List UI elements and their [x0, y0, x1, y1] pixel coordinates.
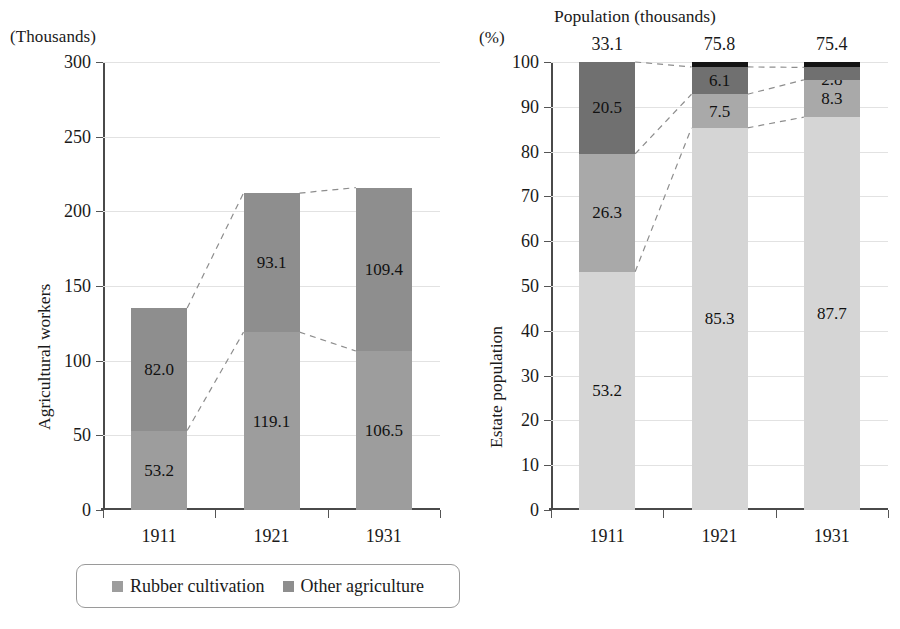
y-tick-mark: [544, 107, 551, 108]
y-tick-label: 0: [530, 501, 539, 519]
bar-segment-value: 6.1: [709, 72, 730, 89]
y-tick-label: 50: [521, 277, 539, 295]
y-tick-mark: [96, 361, 103, 362]
y-tick-label: 20: [521, 411, 539, 429]
panel-agricultural-workers: (Thousands) Agricultural workers 0501001…: [0, 0, 460, 629]
bar-stack[interactable]: 85.37.56.1: [692, 62, 748, 510]
bar-segment-value: 119.1: [253, 413, 291, 430]
left-legend: Rubber cultivationOther agriculture: [76, 564, 460, 608]
y-tick-mark: [96, 435, 103, 436]
y-tick-mark: [96, 62, 103, 63]
connector-line: [635, 128, 691, 272]
y-tick-label: 0: [82, 501, 91, 519]
y-tick-mark: [96, 211, 103, 212]
x-tick-label: 1911: [589, 526, 624, 547]
bar-stack[interactable]: 87.78.32.8: [804, 62, 860, 510]
x-tick-mark: [551, 510, 552, 518]
y-tick-label: 100: [64, 352, 91, 370]
bar-segment-value: 85.3: [705, 310, 735, 327]
bar-segment[interactable]: 8.3: [804, 80, 860, 117]
bar-total-label: 75.4: [816, 34, 848, 55]
bar-segment[interactable]: 87.7: [804, 117, 860, 510]
bar-stack[interactable]: 119.193.1: [244, 62, 300, 510]
connector-line: [300, 332, 356, 351]
y-tick-mark: [544, 62, 551, 63]
x-tick-mark: [776, 510, 777, 518]
y-tick-mark: [544, 420, 551, 421]
x-tick-label: 1921: [702, 526, 738, 547]
bar-segment[interactable]: 85.3: [692, 128, 748, 510]
bar-segment-value: 7.5: [709, 103, 730, 120]
x-tick-mark: [888, 510, 889, 518]
bar-segment[interactable]: 109.4: [356, 188, 412, 351]
bar-segment[interactable]: [804, 62, 860, 67]
legend-item-other-agriculture[interactable]: Other agriculture: [283, 576, 424, 597]
bar-segment[interactable]: 106.5: [356, 351, 412, 510]
y-tick-mark: [544, 465, 551, 466]
bar-segment-value: 26.3: [592, 204, 622, 221]
y-tick-mark: [96, 286, 103, 287]
right-plot-area: 0102030405060708090100 191119211931 33.1…: [551, 62, 888, 510]
connector-line: [300, 188, 356, 194]
bar-segment-value: 109.4: [365, 261, 403, 278]
bar-stack[interactable]: 53.282.0: [131, 62, 187, 510]
x-tick-label: 1931: [366, 526, 402, 547]
x-tick-mark: [440, 510, 441, 518]
bar-segment[interactable]: 20.5: [579, 62, 635, 154]
bar-stack[interactable]: 53.226.320.5: [579, 62, 635, 510]
legend-swatch-icon: [283, 581, 294, 592]
x-tick-mark: [328, 510, 329, 518]
right-unit-caption: (%): [479, 28, 505, 48]
left-plot-area: 050100150200250300 191119211931 53.282.0…: [103, 62, 440, 510]
bar-segment[interactable]: 82.0: [131, 308, 187, 430]
x-tick-label: 1931: [814, 526, 850, 547]
connector-line: [748, 117, 804, 128]
y-tick-label: 40: [521, 322, 539, 340]
bar-total-label: 33.1: [591, 34, 623, 55]
bar-segment-value: 8.3: [821, 90, 842, 107]
x-tick-mark: [663, 510, 664, 518]
y-tick-label: 150: [64, 277, 91, 295]
bar-segment[interactable]: 6.1: [692, 67, 748, 94]
y-tick-label: 50: [73, 426, 91, 444]
bar-segment-value: 82.0: [144, 361, 174, 378]
legend-label: Other agriculture: [301, 576, 424, 597]
legend-item-rubber-cultivation[interactable]: Rubber cultivation: [112, 576, 264, 597]
bar-stack[interactable]: 106.5109.4: [356, 62, 412, 510]
bar-segment[interactable]: 53.2: [131, 431, 187, 510]
bar-segment[interactable]: 53.2: [579, 272, 635, 510]
y-tick-label: 90: [521, 98, 539, 116]
y-tick-label: 200: [64, 202, 91, 220]
y-tick-mark: [96, 137, 103, 138]
connector-line: [748, 80, 804, 94]
bar-segment[interactable]: [692, 62, 748, 67]
y-tick-label: 10: [521, 456, 539, 474]
left-unit-caption: (Thousands): [10, 27, 96, 47]
y-tick-label: 100: [512, 53, 539, 71]
bar-segment-value: 87.7: [817, 305, 847, 322]
right-y-axis-title: Estate population: [486, 326, 507, 448]
two-panel-figure: (Thousands) Agricultural workers 0501001…: [0, 0, 900, 629]
y-tick-label: 70: [521, 187, 539, 205]
bar-segment[interactable]: 7.5: [692, 94, 748, 128]
bar-total-label: 75.8: [704, 34, 736, 55]
bar-segment[interactable]: [804, 67, 860, 80]
y-tick-label: 250: [64, 128, 91, 146]
bar-segment[interactable]: 26.3: [579, 154, 635, 272]
x-tick-mark: [215, 510, 216, 518]
bar-segment-value: 53.2: [592, 382, 622, 399]
connector-line: [635, 94, 691, 154]
connector-line: [187, 332, 243, 430]
y-tick-mark: [544, 196, 551, 197]
y-tick-mark: [96, 510, 103, 511]
y-tick-label: 80: [521, 143, 539, 161]
bar-segment[interactable]: 119.1: [244, 332, 300, 510]
y-tick-mark: [544, 331, 551, 332]
y-tick-label: 300: [64, 53, 91, 71]
bar-segment-value: 53.2: [144, 462, 174, 479]
bar-segment[interactable]: 93.1: [244, 193, 300, 332]
y-tick-mark: [544, 376, 551, 377]
left-y-axis-title: Agricultural workers: [34, 284, 55, 430]
legend-label: Rubber cultivation: [130, 576, 264, 597]
bar-segment-value: 20.5: [592, 99, 622, 116]
